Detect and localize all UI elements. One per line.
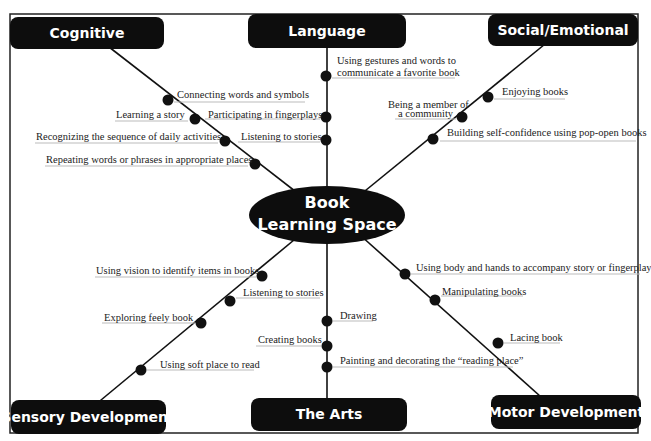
hub-book-learning-space: Book Learning Space: [249, 186, 405, 244]
item-label: Using vision to identify items in books: [96, 265, 259, 276]
arts-items: Drawing Creating books Painting and deco…: [256, 310, 524, 373]
item-label: Listening to stories: [241, 131, 322, 142]
node-dot: [322, 316, 333, 327]
node-dot: [321, 135, 332, 146]
node-dot: [428, 134, 439, 145]
category-language: Language: [248, 14, 406, 48]
item-label: Using body and hands to accompany story …: [416, 262, 651, 273]
spoke-motor: [360, 235, 550, 405]
item-label: Creating books: [258, 334, 322, 345]
node-dot: [196, 318, 207, 329]
category-cognitive: Cognitive: [10, 17, 164, 49]
node-dot: [457, 112, 468, 123]
node-dot: [321, 71, 332, 82]
item-label: Using gestures and words to: [337, 55, 456, 66]
item-label: Manipulating books: [442, 286, 526, 297]
node-dot: [322, 341, 333, 352]
item-label: a community: [398, 108, 454, 119]
item-label: Learning a story: [116, 109, 186, 120]
item-label: Recognizing the sequence of daily activi…: [36, 131, 221, 142]
item-label: Connecting words and symbols: [177, 89, 309, 100]
item-label: Building self-confidence using pop-open …: [447, 127, 646, 138]
category-label: Motor Development: [488, 404, 645, 420]
category-arts: The Arts: [251, 398, 407, 431]
item-label: Using soft place to read: [160, 359, 260, 370]
item-label: Listening to stories: [243, 287, 324, 298]
item-label: Painting and decorating the “reading pla…: [340, 355, 524, 366]
category-sensory: Sensory Development: [1, 400, 175, 434]
item-label: Enjoying books: [502, 86, 568, 97]
item-label: Exploring feely book: [104, 312, 194, 323]
item-label: Drawing: [340, 310, 377, 321]
node-dot: [322, 362, 333, 373]
cognitive-items: Connecting words and symbols Learning a …: [35, 89, 309, 170]
node-dot: [493, 338, 504, 349]
category-label: Sensory Development: [1, 409, 175, 425]
hub-title-line1: Book: [305, 193, 350, 212]
node-dot: [430, 295, 441, 306]
category-motor: Motor Development: [488, 395, 645, 429]
sensory-items: Using vision to identify items in books …: [95, 265, 324, 376]
social-items: Enjoying books Being a member of a commu…: [388, 86, 646, 145]
item-label: Repeating words or phrases in appropriat…: [46, 154, 252, 165]
node-dot: [163, 95, 174, 106]
category-label: Cognitive: [50, 25, 125, 41]
node-dot: [483, 92, 494, 103]
node-dot: [400, 269, 411, 280]
node-dot: [225, 296, 236, 307]
item-label: Lacing book: [510, 332, 564, 343]
category-label: Language: [288, 23, 365, 39]
category-label: Social/Emotional: [497, 22, 628, 38]
motor-items: Using body and hands to accompany story …: [400, 262, 651, 349]
mind-map: Connecting words and symbols Learning a …: [0, 0, 651, 441]
node-dot: [190, 114, 201, 125]
item-label: Participating in fingerplays: [208, 109, 322, 120]
item-label: communicate a favorite book: [337, 67, 460, 78]
node-dot: [136, 365, 147, 376]
category-social: Social/Emotional: [488, 14, 638, 46]
category-label: The Arts: [296, 406, 363, 422]
hub-title-line2: Learning Space: [257, 215, 396, 234]
